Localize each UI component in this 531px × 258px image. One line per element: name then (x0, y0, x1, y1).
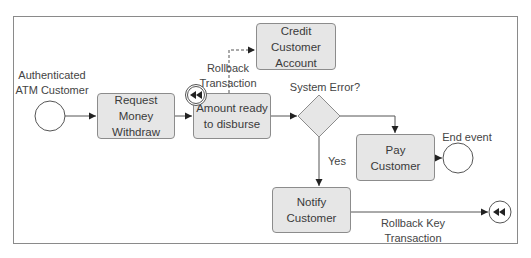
gateway-yes-label: Yes (322, 154, 352, 169)
end-event-circle[interactable] (443, 143, 473, 173)
task-request-money-withdraw[interactable]: Request Money Withdraw (97, 93, 175, 139)
gateway-label: System Error? (285, 80, 365, 95)
task-notify-customer[interactable]: Notify Customer (272, 187, 351, 233)
rollback-end-event[interactable] (489, 201, 511, 223)
start-event-label: Authenticated ATM Customer (12, 68, 92, 98)
flow-gateway-to-pay (340, 116, 395, 133)
end-event-label: End event (437, 130, 497, 145)
boundary-event-label: Rollback Transaction (195, 61, 261, 91)
start-event-circle[interactable] (35, 101, 65, 131)
task-credit-customer-account[interactable]: Credit Customer Account (256, 23, 336, 70)
gateway-diamond[interactable] (298, 95, 340, 137)
rollback-end-event-label: Rollback Key Transaction (368, 216, 458, 246)
task-pay-customer[interactable]: Pay Customer (356, 134, 435, 181)
